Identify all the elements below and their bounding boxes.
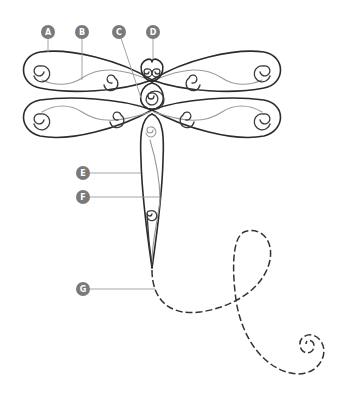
head bbox=[141, 59, 163, 82]
badge-g: G bbox=[76, 282, 90, 296]
tail bbox=[152, 230, 324, 374]
svg-text:B: B bbox=[79, 28, 85, 37]
dragonfly-diagram: A B C D E F G bbox=[0, 0, 359, 419]
thorax bbox=[141, 83, 164, 109]
badge-b: B bbox=[75, 25, 89, 39]
abdomen bbox=[141, 114, 164, 268]
svg-text:A: A bbox=[45, 28, 52, 37]
lower-left-wing bbox=[24, 98, 153, 137]
badge-a: A bbox=[41, 25, 55, 39]
svg-text:G: G bbox=[80, 285, 87, 294]
svg-text:D: D bbox=[150, 28, 157, 37]
upper-right-wing bbox=[152, 51, 281, 91]
svg-text:F: F bbox=[80, 193, 85, 202]
badge-d: D bbox=[146, 25, 160, 39]
badge-f: F bbox=[76, 190, 90, 204]
lower-right-wing bbox=[152, 98, 281, 137]
badge-c: C bbox=[112, 25, 126, 39]
svg-text:C: C bbox=[116, 28, 122, 37]
svg-text:E: E bbox=[80, 169, 85, 178]
upper-left-wing bbox=[24, 51, 153, 91]
badge-e: E bbox=[76, 166, 90, 180]
